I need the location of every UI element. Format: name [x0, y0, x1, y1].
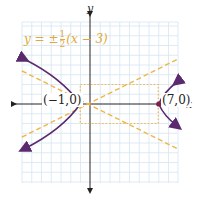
vertex-right-label: (7,0): [161, 93, 191, 107]
asymptote-equation: y = ±12(x − 3): [24, 30, 108, 49]
y-axis-label: y: [87, 2, 93, 15]
asymptote-suffix: (x − 3): [66, 32, 107, 46]
vertex-left-label: (−1,0): [42, 93, 83, 107]
fraction-denominator: 2: [60, 40, 66, 49]
asymptote-prefix: y = ±: [24, 32, 59, 46]
